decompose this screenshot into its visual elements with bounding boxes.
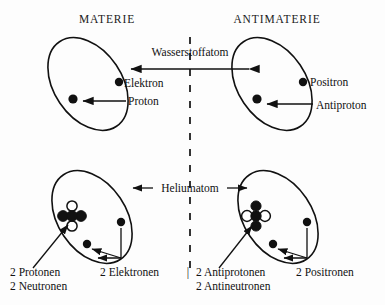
helium-atom-antimatter: 2 Antiprotonen 2 Antineutronen 2 Positro… (196, 156, 354, 292)
label-positron: Positron (310, 76, 349, 88)
caption-separator: | (187, 265, 189, 279)
antineutron-particle (251, 201, 261, 211)
proton-particle (68, 94, 77, 103)
nucleus-leader-line (33, 225, 68, 268)
electron-leader-bracket-a (98, 228, 121, 258)
neutron-particle (67, 201, 77, 211)
electron-particle (117, 218, 125, 226)
positron-leader-bracket-a (284, 228, 307, 258)
label-heliumatom: Heliumatom (161, 182, 219, 194)
antineutron-particle (251, 221, 261, 231)
label-positronen: 2 Positronen (296, 266, 354, 278)
positron-particle (303, 218, 311, 226)
label-neutronen: 2 Neutronen (10, 280, 67, 292)
proton-particle (67, 211, 78, 222)
label-electron-matter: Elektron (124, 77, 164, 89)
hydrogen-atom-antimatter: Positron Antiproton (215, 23, 366, 146)
helium-nucleus-antimatter (242, 201, 271, 231)
helium-orbit-matter (35, 156, 148, 279)
antinucleus-leader-line (219, 226, 252, 268)
electron-particle (83, 240, 91, 248)
label-antiproton: Antiproton (316, 99, 367, 112)
antiproton-particle (252, 94, 261, 103)
antineutron-particle (251, 211, 261, 221)
positron-particle (269, 240, 277, 248)
label-elektronen: 2 Elektronen (100, 266, 159, 278)
helium-nucleus-matter (58, 201, 87, 231)
electron-leader-bracket-b (92, 249, 121, 258)
neutron-particle (67, 221, 77, 231)
electron-particle (115, 78, 123, 86)
figure-canvas: MATERIE ANTIMATERIE Elektron Proton Posi… (0, 0, 385, 305)
header-antimatter: ANTIMATERIE (233, 13, 320, 25)
helium-connector: Heliumatom (133, 182, 247, 194)
header-matter: MATERIE (79, 13, 135, 25)
label-protonen: 2 Protonen (10, 266, 60, 278)
hydrogen-atom-matter: Elektron Proton (31, 23, 164, 146)
label-proton-matter: Proton (128, 95, 159, 107)
helium-atom-matter: 2 Protonen 2 Neutronen 2 Elektronen (10, 156, 159, 292)
positron-particle (299, 78, 307, 86)
helium-orbit-antimatter (221, 156, 334, 279)
label-wasserstoffatom: Wasserstoffatom (152, 46, 229, 58)
positron-leader-bracket-b (278, 249, 307, 258)
label-antineutronen: 2 Antineutronen (196, 280, 271, 292)
antimatter-diagram: MATERIE ANTIMATERIE Elektron Proton Posi… (0, 0, 385, 305)
label-antiprotonen: 2 Antiprotonen (196, 266, 266, 279)
